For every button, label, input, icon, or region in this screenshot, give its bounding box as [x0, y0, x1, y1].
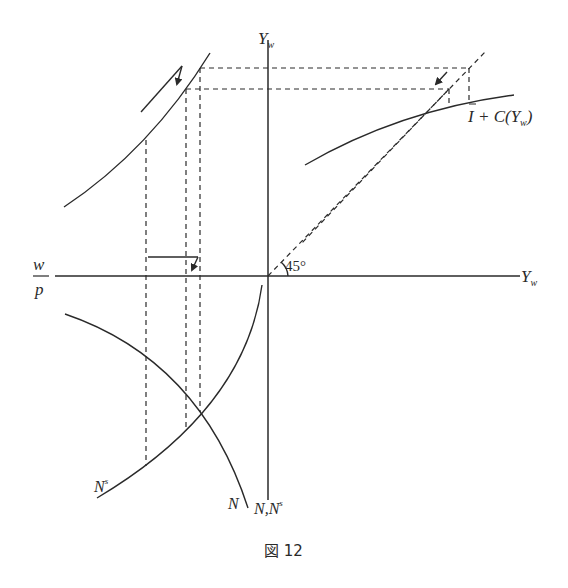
real-wage-label: w p — [33, 255, 49, 299]
angle-label: 45° — [285, 258, 306, 274]
real-wage-numerator: w — [33, 255, 45, 274]
shift-line-upper-left — [141, 66, 182, 112]
labor-demand-label: N — [227, 495, 240, 512]
production-function-curve — [64, 53, 210, 207]
vertical-axis-top-label: Yw — [258, 29, 274, 50]
wage-shift-arrow — [192, 257, 198, 270]
keynesian-four-quadrant-diagram: Yw Yw w p N,Ns 45° I + C(Yw) — [0, 0, 568, 588]
horizontal-axis-right-label: Yw — [521, 267, 537, 288]
labor-demand-curve — [65, 314, 248, 508]
shift-arrow-upper-right — [436, 72, 447, 84]
labor-supply-curve — [97, 285, 262, 498]
real-wage-denominator: p — [34, 280, 44, 299]
figure-caption: 図 12 — [264, 542, 303, 560]
aggregate-demand-label: I + C(Yw) — [467, 107, 533, 128]
vertical-axis-bottom-label: N,Ns — [253, 498, 283, 517]
